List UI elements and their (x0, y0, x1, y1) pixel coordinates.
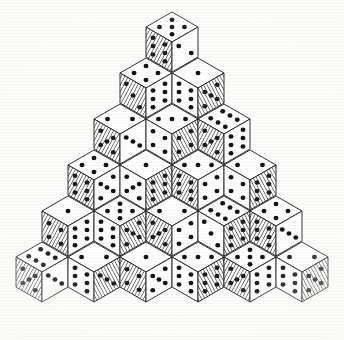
die-right-face-pip (229, 226, 234, 231)
die-left-face-pip (228, 281, 233, 286)
die-top-face-pip (260, 255, 265, 260)
die-right-face-pip (203, 196, 208, 201)
die-right-face-pip (255, 180, 260, 185)
die-right-face-pip (177, 136, 182, 141)
die-top-face-pip (157, 25, 162, 30)
die-right-face-pip (189, 143, 194, 148)
die-top-face-pip (223, 124, 228, 128)
die-left-face-pip (177, 190, 182, 195)
die-right-face-pip (189, 129, 194, 134)
die-right-face-pip (306, 274, 311, 279)
die-top-face-pip (118, 209, 123, 214)
die-left-face-pip (151, 44, 156, 49)
die-top-face-pip (196, 71, 201, 76)
die-left-face-pip (33, 288, 38, 293)
die-left-face-pip (47, 221, 52, 226)
die-left-face-pip (99, 236, 104, 241)
die-right-face-pip (202, 90, 207, 95)
die-right-face-pip (229, 151, 234, 156)
die-right-face-pip (137, 235, 142, 240)
die-right-face-pip (255, 289, 260, 294)
die-left-face-pip (73, 274, 78, 279)
die-right-face-pip (203, 289, 208, 294)
die-left-face-pip (189, 289, 194, 294)
die-left-face-pip (189, 97, 194, 102)
die-right-face-pip (59, 281, 64, 286)
die-top-face-pip (170, 25, 175, 30)
die-top-face-pip (80, 163, 85, 168)
die-left-face-pip (229, 175, 234, 180)
die-top-face-pip (274, 216, 279, 221)
die-right-face-pip (85, 228, 90, 233)
die-top-face-pip (105, 209, 110, 214)
die-top-face-pip (248, 248, 253, 253)
die-right-face-pip (267, 173, 272, 178)
die-left-face-pip (85, 272, 90, 277)
die-top-face-pip (220, 201, 225, 206)
die-left-face-pip (228, 266, 233, 271)
die-top-face-pip (144, 78, 149, 83)
die-left-face-pip (105, 139, 110, 144)
die-top-face-pip (312, 255, 317, 260)
die-left-face-pip (255, 228, 260, 233)
die-right-face-pip (151, 105, 156, 110)
die-right-face-pip (255, 272, 260, 277)
die-left-face-pip (157, 231, 162, 236)
die-right-face-pip (255, 197, 260, 202)
die-left-face-pip (267, 243, 272, 248)
die-left-face-pip (125, 267, 130, 272)
die-top-face-pip (104, 255, 109, 260)
die-top-face-pip (144, 255, 149, 260)
die-left-face-pip (20, 266, 25, 271)
die-right-face-pip (53, 277, 58, 282)
die-left-face-pip (151, 129, 156, 134)
die-left-face-pip (202, 220, 207, 225)
die-left-face-pip (150, 235, 155, 240)
die-left-face-pip (177, 90, 182, 95)
die-top-face-pip (156, 117, 161, 122)
die-top-face-pip (182, 163, 187, 168)
die-top-face-pip (92, 170, 97, 175)
die-left-face-pip (137, 105, 142, 110)
die-left-face-pip (163, 242, 168, 247)
die-right-face-pip (157, 277, 162, 282)
die-left-face-pip (267, 235, 272, 240)
die-left-face-pip (124, 174, 129, 179)
die-top-face-pip (156, 71, 161, 76)
die-left-face-pip (189, 105, 194, 110)
die-right-face-pip (151, 197, 156, 202)
die-left-face-pip (151, 35, 156, 40)
die-right-face-pip (151, 88, 156, 93)
die-left-face-pip (189, 272, 194, 277)
die-right-face-pip (241, 144, 246, 149)
die-right-face-pip (163, 281, 168, 286)
die-right-face-pip (163, 90, 168, 95)
die-left-face-pip (209, 139, 214, 144)
die-left-face-pip (215, 136, 220, 141)
die-right-face-pip (176, 44, 181, 49)
die-right-face-pip (215, 265, 220, 270)
die-right-face-pip (313, 277, 318, 282)
die-left-face-pip (151, 52, 156, 57)
die-right-face-pip (287, 231, 292, 236)
die-right-face-pip (267, 282, 272, 287)
die-top-face-pip (66, 209, 71, 214)
die-right-face-pip (163, 173, 168, 178)
die-right-face-pip (215, 175, 220, 180)
die-right-face-pip (267, 265, 272, 270)
die-left-face-pip (73, 182, 78, 187)
die-right-face-pip (241, 136, 246, 141)
die-right-face-pip (280, 227, 285, 232)
die-right-face-pip (209, 93, 214, 98)
die-right-face-pip (151, 97, 156, 102)
die-left-face-pip (215, 150, 220, 155)
die-top-face-pip (274, 202, 279, 207)
die-top-face-pip (182, 25, 187, 30)
die-left-face-pip (85, 197, 90, 202)
die-right-face-pip (267, 190, 272, 195)
die-left-face-pip (85, 289, 90, 294)
die-left-face-pip (241, 288, 246, 293)
die-right-face-pip (319, 281, 324, 286)
die-left-face-pip (293, 272, 298, 277)
die-left-face-pip (177, 282, 182, 287)
